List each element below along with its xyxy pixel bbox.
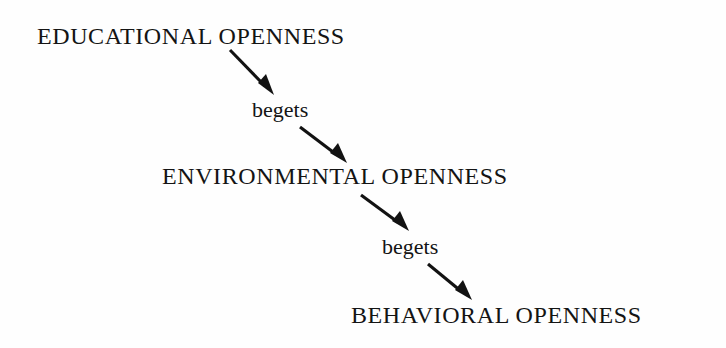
arrow-3-head — [392, 211, 409, 231]
link-label-begets-2: begets — [382, 236, 438, 258]
arrow-environmental-to-begets-2 — [361, 195, 409, 231]
arrow-1-shaft — [230, 50, 265, 86]
arrow-1-head — [258, 74, 274, 95]
node-behavioral-openness: BEHAVIORAL OPENNESS — [351, 303, 642, 327]
arrow-begets-2-to-behavioral — [428, 264, 472, 300]
arrow-3-shaft — [361, 195, 399, 223]
link-label-begets-1: begets — [252, 99, 308, 121]
arrow-4-head — [455, 280, 472, 300]
arrow-2-head — [330, 143, 347, 163]
arrow-4-shaft — [428, 264, 462, 292]
node-environmental-openness: ENVIRONMENTAL OPENNESS — [162, 164, 508, 188]
arrow-begets-1-to-environmental — [300, 127, 347, 163]
arrow-educational-to-begets-1 — [230, 50, 274, 95]
arrow-2-shaft — [300, 127, 337, 155]
node-educational-openness: EDUCATIONAL OPENNESS — [37, 24, 345, 48]
diagram-canvas: EDUCATIONAL OPENNESS begets ENVIRONMENTA… — [0, 0, 726, 348]
